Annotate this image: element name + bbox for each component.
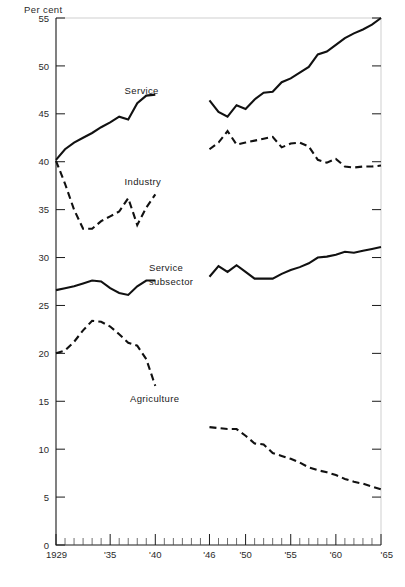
y-tick-label: 45: [38, 108, 49, 119]
y-tick-label: 10: [38, 444, 49, 455]
y-tick-label: 25: [38, 300, 49, 311]
y-tick-label: 55: [38, 13, 49, 24]
y-tick-label: 50: [38, 61, 49, 72]
x-tick-label: 1929: [46, 549, 67, 560]
chart-container: Per cent 0510152025303540455055 1929'35'…: [0, 0, 405, 587]
x-tick-label: '60: [330, 549, 342, 560]
y-tick-label: 5: [44, 492, 49, 503]
x-tick-label: '50: [239, 549, 251, 560]
series-label: Service: [125, 85, 159, 96]
y-tick-label: 40: [38, 156, 49, 167]
x-tick-label: '40: [149, 549, 161, 560]
x-tick-label: '55: [285, 549, 297, 560]
x-tick-label: '65: [381, 549, 393, 560]
line-chart: Per cent 0510152025303540455055 1929'35'…: [0, 0, 405, 587]
series-label: Industry: [125, 176, 162, 187]
series-label: Agriculture: [130, 393, 179, 404]
chart-background: [0, 0, 405, 587]
series-label: subsector: [149, 276, 193, 287]
y-tick-label: 30: [38, 252, 49, 263]
y-tick-label: 15: [38, 396, 49, 407]
y-tick-label: 35: [38, 204, 49, 215]
x-tick-label: '46: [203, 549, 215, 560]
y-tick-label: 20: [38, 348, 49, 359]
x-tick-label: '35: [104, 549, 116, 560]
series-label: Service: [149, 262, 183, 273]
